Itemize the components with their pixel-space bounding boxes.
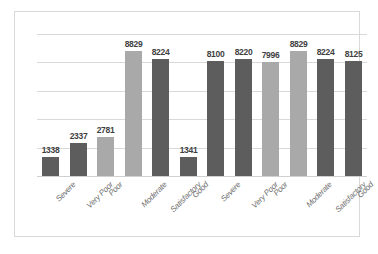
bar bbox=[97, 137, 114, 176]
bar-value-label: 8224 bbox=[317, 48, 335, 57]
bar-value-label: 8224 bbox=[152, 48, 170, 57]
x-tick-11: Good bbox=[340, 178, 368, 238]
bar bbox=[180, 157, 197, 176]
x-tick-10: Satisfactory bbox=[312, 178, 340, 238]
bar bbox=[207, 61, 224, 176]
bar-group: 8829 bbox=[125, 34, 142, 176]
x-tick-3: Moderate bbox=[120, 178, 148, 238]
bar bbox=[290, 51, 307, 176]
x-axis-category-labels: SevereVery PoorPoorModerateSatisfactoryG… bbox=[37, 178, 367, 238]
x-axis-label: Good bbox=[356, 180, 376, 200]
bar-value-label: 8829 bbox=[125, 40, 143, 49]
x-tick-0: Severe bbox=[37, 178, 65, 238]
bar-group: 1341 bbox=[180, 34, 197, 176]
plot-area: 1338233727818829822413418100822079968829… bbox=[37, 34, 367, 176]
bar-group: 2781 bbox=[97, 34, 114, 176]
bar-chart-figure: 1338233727818829822413418100822079968829… bbox=[0, 0, 378, 254]
bar bbox=[152, 59, 169, 176]
bars-layer: 1338233727818829822413418100822079968829… bbox=[37, 34, 367, 176]
chart-frame: 1338233727818829822413418100822079968829… bbox=[14, 11, 360, 237]
bar bbox=[125, 51, 142, 176]
bar bbox=[345, 61, 362, 176]
bar-value-label: 1338 bbox=[42, 146, 60, 155]
bar-group: 8125 bbox=[345, 34, 362, 176]
bar-value-label: 1341 bbox=[180, 146, 198, 155]
x-tick-4: Satisfactory bbox=[147, 178, 175, 238]
bar-group: 8100 bbox=[207, 34, 224, 176]
bar-value-label: 8100 bbox=[207, 50, 225, 59]
bar-value-label: 8829 bbox=[290, 40, 308, 49]
bar-group: 7996 bbox=[262, 34, 279, 176]
bar-group: 2337 bbox=[70, 34, 87, 176]
bar-value-label: 7996 bbox=[262, 51, 280, 60]
x-tick-2: Poor bbox=[92, 178, 120, 238]
bar bbox=[262, 62, 279, 176]
x-tick-9: Moderate bbox=[285, 178, 313, 238]
bar-value-label: 2337 bbox=[70, 132, 88, 141]
bar-group: 8829 bbox=[290, 34, 307, 176]
bar bbox=[317, 59, 334, 176]
axis-baseline bbox=[37, 176, 367, 177]
x-tick-6: Severe bbox=[202, 178, 230, 238]
bar-value-label: 2781 bbox=[97, 126, 115, 135]
bar bbox=[70, 143, 87, 176]
x-tick-1: Very Poor bbox=[65, 178, 93, 238]
bar bbox=[235, 59, 252, 176]
bar-group: 8224 bbox=[317, 34, 334, 176]
bar bbox=[42, 157, 59, 176]
bar-group: 8220 bbox=[235, 34, 252, 176]
x-tick-7: Very Poor bbox=[230, 178, 258, 238]
bar-group: 1338 bbox=[42, 34, 59, 176]
x-tick-8: Poor bbox=[257, 178, 285, 238]
bar-group: 8224 bbox=[152, 34, 169, 176]
x-tick-5: Good bbox=[175, 178, 203, 238]
bar-value-label: 8220 bbox=[235, 48, 253, 57]
bar-value-label: 8125 bbox=[345, 50, 363, 59]
